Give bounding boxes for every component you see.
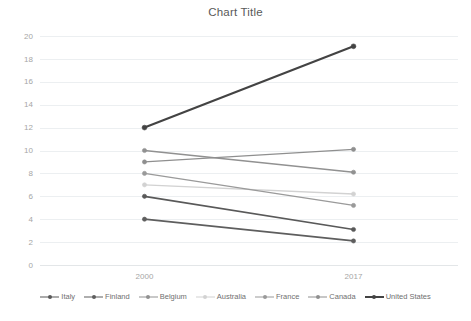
- data-point-italy-2000: [142, 194, 146, 198]
- legend-line-marker-icon: [196, 292, 215, 301]
- y-tick-label: 12: [24, 123, 33, 132]
- legend-item-label: Finland: [105, 292, 130, 301]
- legend-item-belgium[interactable]: Belgium: [139, 292, 187, 301]
- y-tick-label: 20: [24, 32, 33, 41]
- legend-item-italy[interactable]: Italy: [40, 292, 75, 301]
- data-point-belgium-2017: [351, 170, 355, 174]
- legend-item-label: France: [276, 292, 299, 301]
- legend-item-united-states[interactable]: United States: [365, 292, 431, 301]
- data-point-belgium-2000: [142, 148, 146, 152]
- x-axis-tick-labels: 20002017: [136, 272, 363, 281]
- data-point-italy-2017: [351, 227, 355, 231]
- legend-line-marker-icon: [255, 292, 274, 301]
- y-axis-tick-labels: 02468101214161820: [24, 32, 33, 270]
- legend-line-marker-icon: [40, 292, 59, 301]
- legend-item-label: United States: [386, 292, 431, 301]
- data-point-canada-2017: [351, 147, 355, 151]
- legend-item-label: Italy: [61, 292, 75, 301]
- data-point-france-2000: [142, 171, 146, 175]
- x-tick-label: 2000: [136, 272, 154, 281]
- series-lines-group: [145, 46, 354, 241]
- legend-item-label: Belgium: [160, 292, 187, 301]
- legend-item-label: Australia: [217, 292, 246, 301]
- series-line-belgium: [145, 151, 354, 173]
- data-point-united-states-2017: [351, 44, 356, 49]
- y-tick-label: 0: [29, 261, 34, 270]
- y-tick-label: 18: [24, 55, 33, 64]
- data-point-france-2017: [351, 203, 355, 207]
- data-point-finland-2017: [351, 239, 355, 243]
- line-chart-plot: 02468101214161820 20002017: [0, 0, 471, 321]
- y-tick-label: 14: [24, 100, 33, 109]
- y-tick-label: 2: [29, 238, 34, 247]
- data-point-canada-2000: [142, 160, 146, 164]
- data-point-australia-2017: [351, 192, 355, 196]
- data-point-australia-2000: [142, 183, 146, 187]
- legend-item-australia[interactable]: Australia: [196, 292, 246, 301]
- legend-item-label: Canada: [329, 292, 355, 301]
- legend-line-marker-icon: [365, 292, 384, 301]
- chart-legend: ItalyFinlandBelgiumAustraliaFranceCanada…: [0, 292, 471, 301]
- y-tick-label: 16: [24, 77, 33, 86]
- y-tick-label: 8: [29, 169, 34, 178]
- legend-item-finland[interactable]: Finland: [84, 292, 130, 301]
- data-point-united-states-2000: [142, 125, 147, 130]
- gridlines-group: [40, 37, 458, 266]
- y-tick-label: 4: [29, 215, 34, 224]
- legend-item-canada[interactable]: Canada: [308, 292, 355, 301]
- series-line-united-states: [145, 46, 354, 127]
- legend-item-france[interactable]: France: [255, 292, 299, 301]
- x-tick-label: 2017: [345, 272, 363, 281]
- data-point-finland-2000: [142, 217, 146, 221]
- series-line-finland: [145, 219, 354, 241]
- legend-line-marker-icon: [308, 292, 327, 301]
- legend-line-marker-icon: [139, 292, 158, 301]
- y-tick-label: 6: [29, 192, 34, 201]
- y-tick-label: 10: [24, 146, 33, 155]
- chart-container: Chart Title 02468101214161820 20002017 I…: [0, 0, 471, 321]
- legend-line-marker-icon: [84, 292, 103, 301]
